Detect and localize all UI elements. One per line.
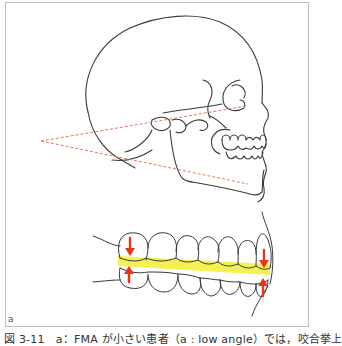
skull-drawing — [86, 16, 269, 202]
figure-caption: 図 3-11 a：FMA が小さい患者（a : low angle）では，咬合挙… — [4, 330, 342, 346]
occlusal-plane-band — [118, 256, 270, 275]
panel-label: a — [8, 314, 14, 324]
fma-angle-lines — [41, 106, 248, 184]
